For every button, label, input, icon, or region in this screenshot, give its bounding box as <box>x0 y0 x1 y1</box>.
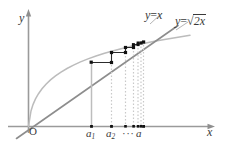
tick-label-ellipsis: ··· <box>122 128 135 139</box>
label-curve-y-equals-sqrt-2x: y=√2x <box>175 14 206 27</box>
label-ysqrt-eq: = <box>180 14 187 28</box>
label-yx-rhs: x <box>157 8 162 22</box>
x-axis-label: x <box>207 126 212 138</box>
math-figure-cobweb-diagram: y=x y=√2x y x O a1 a2 ··· a <box>0 0 225 160</box>
y-axis-label: y <box>19 12 24 24</box>
y-axis-arrow-icon <box>26 9 31 17</box>
radical-group: √2x <box>187 14 206 27</box>
tick-a2-sub: 2 <box>112 133 116 141</box>
tick-label-a1: a1 <box>86 128 95 141</box>
label-ysqrt-radicand: 2x <box>193 14 206 27</box>
line-y-equals-x <box>17 26 179 139</box>
tick-label-a2: a2 <box>106 128 115 141</box>
tick-label-a-limit: a <box>136 128 142 139</box>
tick-a1-sub: 1 <box>92 133 96 141</box>
label-line-y-equals-x: y=x <box>145 9 162 21</box>
origin-label: O <box>29 126 37 137</box>
drop-lines-dotted <box>112 42 144 127</box>
cobweb-staircase <box>92 42 144 63</box>
